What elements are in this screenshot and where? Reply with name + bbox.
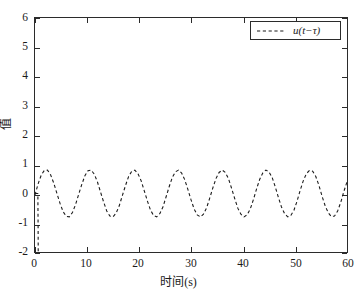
y-tick-label: 1 <box>2 158 28 170</box>
legend-label: u(t−τ) <box>293 25 320 36</box>
y-tick-label: 4 <box>2 70 28 82</box>
y-tick-label: 6 <box>2 12 28 24</box>
x-tick-label: 60 <box>333 258 357 270</box>
y-tick-label: 0 <box>2 188 28 200</box>
x-tick-label: 20 <box>123 258 153 270</box>
y-tick-label: 2 <box>2 129 28 141</box>
series-initial-transient <box>35 194 40 253</box>
x-tick-label: 30 <box>176 258 206 270</box>
x-axis-title: 时间(s) <box>0 276 357 288</box>
y-tick-mark <box>35 253 40 254</box>
x-tick-mark <box>347 247 348 252</box>
x-tick-label: 40 <box>228 258 258 270</box>
x-tick-mark-top <box>347 18 348 23</box>
y-tick-label: -2 <box>2 246 28 258</box>
x-tick-label: 50 <box>281 258 311 270</box>
data-plot-svg <box>35 18 347 252</box>
series-u-t-minus-tau <box>35 170 347 217</box>
x-tick-label: 10 <box>71 258 101 270</box>
x-tick-label: 0 <box>19 258 49 270</box>
y-tick-mark-right <box>342 253 347 254</box>
y-tick-label: -1 <box>2 217 28 229</box>
y-tick-label: 3 <box>2 100 28 112</box>
plot-area <box>34 17 348 253</box>
figure-canvas: 值 6 5 4 3 2 1 0 -1 -2 0 10 20 30 40 50 6… <box>0 0 357 302</box>
legend-line-sample <box>256 26 286 36</box>
legend-box: u(t−τ) <box>250 21 341 40</box>
y-tick-label: 5 <box>2 41 28 53</box>
